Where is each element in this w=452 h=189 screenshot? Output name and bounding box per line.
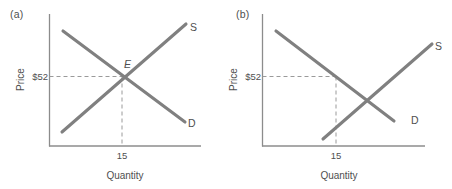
panel-b-demand-label: D: [411, 114, 419, 126]
supply-demand-figure: (a) Price $52 15 Quantity S D E (b): [0, 0, 452, 189]
panel-b: (b) Price $52 15 Quantity S D: [226, 0, 452, 189]
panel-b-x-axis-title: Quantity: [299, 170, 379, 181]
panel-a-equilibrium-label: E: [124, 58, 131, 70]
panel-a-supply-label: S: [190, 21, 197, 33]
panel-a-quantity-tick-label: 15: [110, 150, 134, 161]
panel-a-demand-label: D: [188, 117, 196, 129]
panel-a-price-tick-label: $52: [24, 71, 48, 82]
panel-a-x-axis-title: Quantity: [85, 170, 165, 181]
panel-b-price-tick-label: $52: [237, 71, 261, 82]
panel-b-quantity-tick-label: 15: [324, 150, 348, 161]
panel-b-supply-label: S: [435, 40, 442, 52]
panel-a: (a) Price $52 15 Quantity S D E: [0, 0, 226, 189]
